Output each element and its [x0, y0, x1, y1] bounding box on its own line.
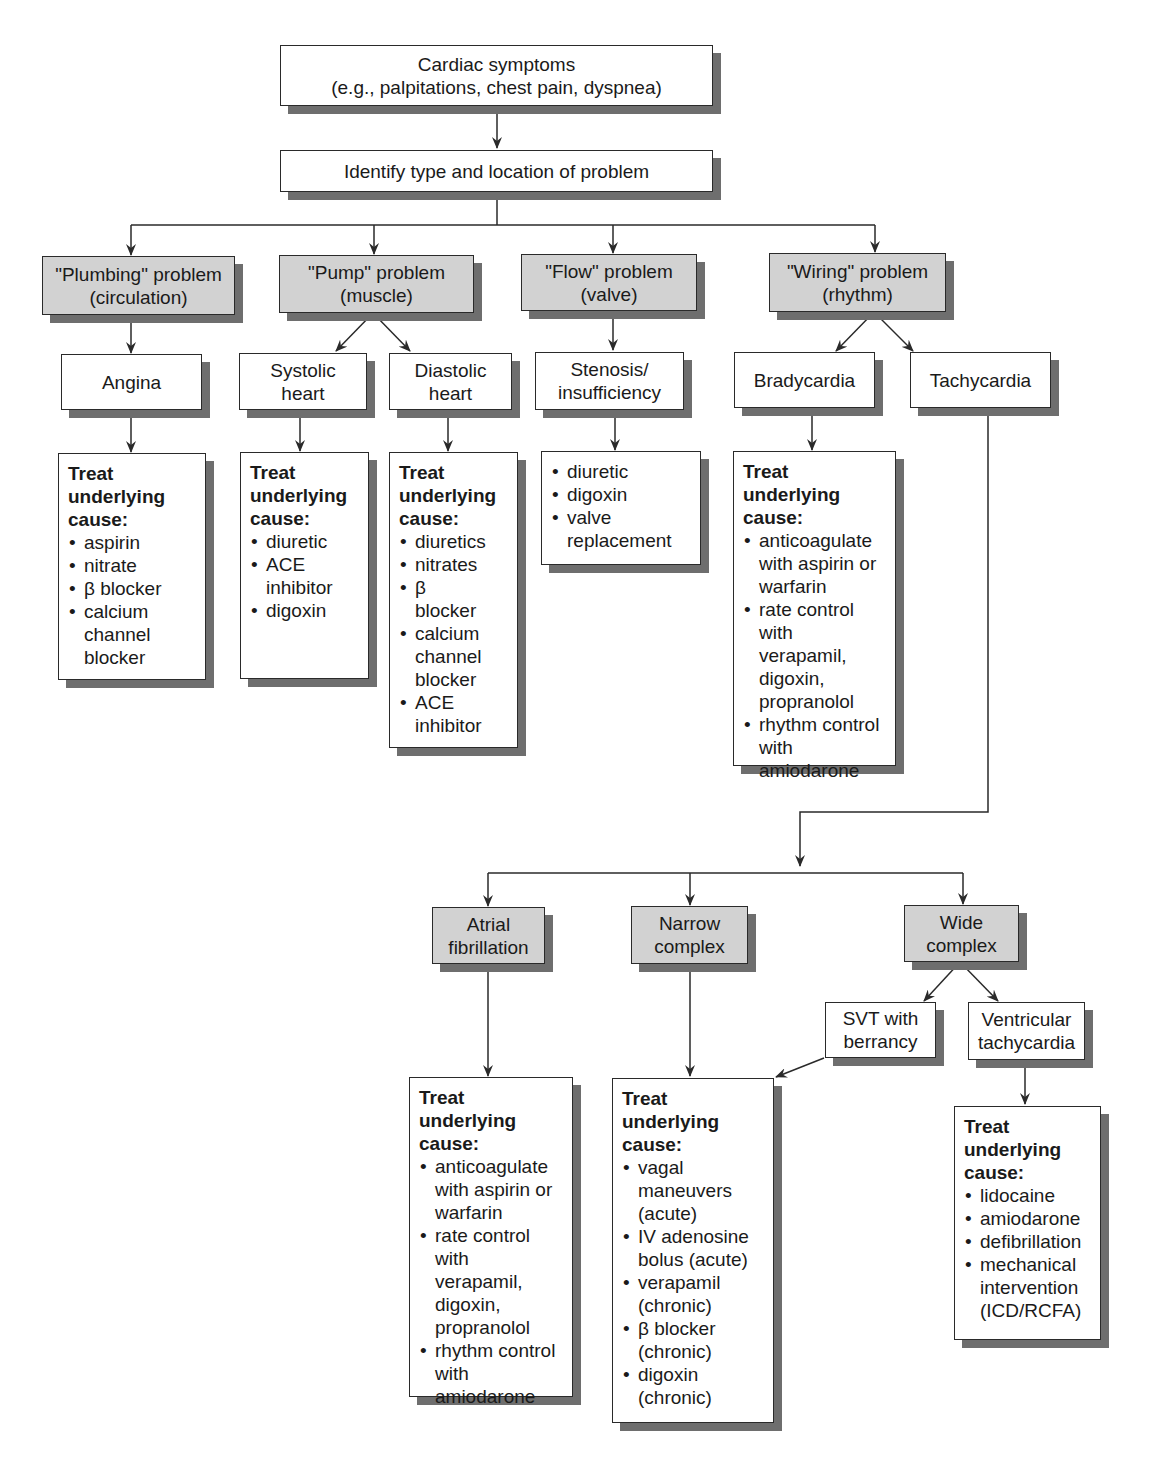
- afib-treatment-box: Treat underlying cause: anticoagulate wi…: [409, 1077, 573, 1397]
- treat-heading: Treat: [743, 460, 788, 483]
- treat-heading: underlying: [964, 1138, 1061, 1161]
- treatment-item: β blocker: [399, 576, 445, 622]
- vt-sublabel: tachycardia: [978, 1031, 1075, 1054]
- treat-heading: Treat: [622, 1087, 667, 1110]
- systolic-heart-box: Systolic heart: [239, 353, 367, 410]
- wide-label: Wide: [940, 911, 983, 934]
- treatment-item: valve replacement: [551, 506, 677, 552]
- wiring-problem-box: "Wiring" problem (rhythm): [769, 253, 946, 312]
- treat-heading: Treat: [250, 461, 295, 484]
- diastolic-label: Diastolic: [415, 359, 487, 382]
- treatment-item: aspirin: [68, 531, 164, 554]
- atrial-fibrillation-box: Atrial fibrillation: [432, 907, 545, 964]
- wide-complex-box: Wide complex: [904, 905, 1019, 962]
- treatment-item: vagal maneuvers (acute): [622, 1156, 738, 1225]
- cardiac-symptoms-title: Cardiac symptoms: [418, 53, 575, 76]
- afib-label: Atrial: [467, 913, 510, 936]
- bradycardia-label: Bradycardia: [754, 369, 855, 392]
- treat-heading: cause:: [68, 508, 128, 531]
- angina-box: Angina: [61, 354, 202, 410]
- treatment-item: defibrillation: [964, 1230, 1095, 1253]
- treat-heading: cause:: [622, 1133, 682, 1156]
- wiring-title: "Wiring" problem: [787, 260, 928, 283]
- treatment-list: vagal maneuvers (acute) IV adenosine bol…: [622, 1156, 768, 1409]
- plumbing-title: "Plumbing" problem: [55, 263, 222, 286]
- svt-label: SVT with: [843, 1007, 919, 1030]
- narrow-complex-treatment-box: Treat underlying cause: vagal maneuvers …: [612, 1078, 774, 1423]
- vt-treatment-box: Treat underlying cause: lidocaine amioda…: [954, 1106, 1101, 1340]
- treatment-item: amiodarone: [964, 1207, 1095, 1230]
- treatment-item: rate control with verapamil, digoxin, pr…: [743, 598, 884, 713]
- pump-title: "Pump" problem: [308, 261, 445, 284]
- identify-problem-box: Identify type and location of problem: [280, 150, 713, 192]
- treatment-item: IV adenosine bolus (acute): [622, 1225, 768, 1271]
- treatment-item: diuretic: [250, 530, 327, 553]
- treatment-list: diuretic digoxin valve replacement: [551, 460, 677, 552]
- narrow-complex-box: Narrow complex: [631, 906, 748, 964]
- treatment-item: digoxin (chronic): [622, 1363, 738, 1409]
- flow-subtitle: (valve): [580, 283, 637, 306]
- treatment-item: β blocker (chronic): [622, 1317, 738, 1363]
- treat-heading: Treat: [68, 462, 113, 485]
- treat-heading: underlying: [68, 485, 165, 508]
- treat-heading: underlying: [419, 1109, 516, 1132]
- treat-heading: underlying: [399, 484, 496, 507]
- treat-heading: Treat: [419, 1086, 464, 1109]
- stenosis-label: Stenosis/: [570, 358, 648, 381]
- treatment-item: ACE inhibitor: [250, 553, 326, 599]
- wiring-subtitle: (rhythm): [822, 283, 893, 306]
- treat-heading: underlying: [250, 484, 347, 507]
- treatment-item: digoxin: [250, 599, 327, 622]
- stenosis-sublabel: insufficiency: [558, 381, 661, 404]
- treatment-item: ACE inhibitor: [399, 691, 475, 737]
- vt-label: Ventricular: [982, 1008, 1072, 1031]
- narrow-label: Narrow: [659, 912, 720, 935]
- afib-sublabel: fibrillation: [448, 936, 528, 959]
- cardiac-symptoms-examples: (e.g., palpitations, chest pain, dyspnea…: [331, 76, 662, 99]
- pump-problem-box: "Pump" problem (muscle): [279, 255, 474, 313]
- svt-sublabel: berrancy: [844, 1030, 918, 1053]
- narrow-sublabel: complex: [654, 935, 725, 958]
- treatment-list: diuretic ACE inhibitor digoxin: [250, 530, 327, 622]
- stenosis-treatment-box: diuretic digoxin valve replacement: [541, 451, 701, 565]
- treatment-item: lidocaine: [964, 1184, 1095, 1207]
- flow-title: "Flow" problem: [545, 260, 673, 283]
- treatment-item: rhythm control with amiodarone: [743, 713, 884, 782]
- treat-heading: cause:: [419, 1132, 479, 1155]
- diastolic-heart-box: Diastolic heart: [389, 353, 512, 410]
- diastolic-treatment-box: Treat underlying cause: diuretics nitrat…: [389, 452, 518, 748]
- svt-aberrancy-box: SVT with berrancy: [825, 1002, 936, 1058]
- angina-label: Angina: [102, 371, 161, 394]
- bradycardia-box: Bradycardia: [734, 352, 875, 408]
- treatment-list: anticoagulate with aspirin or warfarin r…: [419, 1155, 561, 1408]
- diastolic-sublabel: heart: [429, 382, 472, 405]
- treatment-item: diuretic: [551, 460, 677, 483]
- treatment-item: calcium channel blocker: [68, 600, 164, 669]
- tachycardia-box: Tachycardia: [910, 352, 1051, 408]
- treat-heading: cause:: [250, 507, 310, 530]
- treatment-item: mechanical intervention (ICD/RCFA): [964, 1253, 1095, 1322]
- treatment-item: calcium channel blocker: [399, 622, 495, 691]
- wide-sublabel: complex: [926, 934, 997, 957]
- treatment-item: nitrates: [399, 553, 495, 576]
- treat-heading: Treat: [964, 1115, 1009, 1138]
- bradycardia-treatment-box: Treat underlying cause: anticoagulate wi…: [733, 451, 896, 766]
- treatment-list: anticoagulate with aspirin or warfarin r…: [743, 529, 884, 782]
- identify-problem-label: Identify type and location of problem: [344, 160, 649, 183]
- flow-problem-box: "Flow" problem (valve): [521, 254, 697, 311]
- plumbing-subtitle: (circulation): [89, 286, 187, 309]
- treat-heading: underlying: [743, 483, 840, 506]
- treat-heading: underlying: [622, 1110, 719, 1133]
- treatment-item: rate control with verapamil, digoxin, pr…: [419, 1224, 561, 1339]
- treatment-list: aspirin nitrate β blocker calcium channe…: [68, 531, 164, 669]
- angina-treatment-box: Treat underlying cause: aspirin nitrate …: [58, 453, 206, 680]
- treatment-list: lidocaine amiodarone defibrillation mech…: [964, 1184, 1095, 1322]
- treat-heading: cause:: [399, 507, 459, 530]
- systolic-treatment-box: Treat underlying cause: diuretic ACE inh…: [240, 452, 369, 679]
- ventricular-tachycardia-box: Ventricular tachycardia: [968, 1002, 1085, 1060]
- treatment-item: digoxin: [551, 483, 677, 506]
- tachycardia-label: Tachycardia: [930, 369, 1031, 392]
- treatment-item: rhythm control with amiodarone: [419, 1339, 561, 1408]
- treatment-item: anticoagulate with aspirin or warfarin: [419, 1155, 561, 1224]
- treat-heading: Treat: [399, 461, 444, 484]
